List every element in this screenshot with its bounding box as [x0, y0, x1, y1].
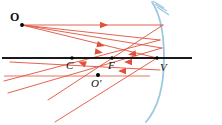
label-vertex-point: V [160, 62, 167, 73]
arrow-incident-low [95, 48, 104, 56]
ray-reflected-ray-f [4, 40, 160, 81]
label-center-of-curvature: C [66, 60, 73, 71]
arrow-reflected-low [118, 68, 126, 74]
ray-incident-to-vertex [22, 25, 157, 58]
arrow-parallel-ray [100, 22, 108, 28]
ray-incident-through-F [22, 25, 160, 40]
light-rays-group [4, 25, 163, 122]
point-marker-V [155, 56, 158, 59]
ray-diagram-canvas: O C F V O′ [0, 0, 222, 125]
arrow-reflected-up [124, 59, 132, 65]
label-image-point: O′ [91, 78, 101, 89]
label-focal-point: F [108, 60, 115, 71]
label-object-point: O [10, 11, 19, 23]
ray-reflected-ray-c [8, 48, 162, 93]
point-marker-O [20, 23, 24, 27]
